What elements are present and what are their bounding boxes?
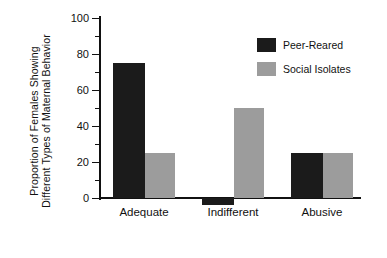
bar-peer-reared-adequate	[113, 63, 145, 198]
bar-social-isolates-adequate	[145, 153, 175, 198]
bar-chart-figure: Proportion of Females Showing Different …	[0, 0, 387, 258]
y-axis-title: Proportion of Females Showing Different …	[23, 21, 57, 221]
y-tick-major-40	[92, 126, 99, 127]
y-tick-major-0	[92, 198, 99, 199]
y-tick-minor-10	[95, 180, 99, 181]
y-axis-title-line-2: Different Types of Maternal Behavior	[40, 34, 52, 208]
y-tick-major-80	[92, 54, 99, 55]
chart-legend: Peer-Reared Social Isolates	[257, 38, 351, 86]
y-tick-minor-30	[95, 144, 99, 145]
legend-swatch-peer-reared	[257, 38, 276, 52]
x-axis-label-abusive: Abusive	[302, 206, 343, 218]
legend-item-social-isolates: Social Isolates	[257, 62, 351, 76]
legend-label-social-isolates: Social Isolates	[283, 63, 351, 75]
y-tick-minor-70	[95, 72, 99, 73]
y-tick-major-60	[92, 90, 99, 91]
y-axis-title-line-1: Proportion of Females Showing	[28, 46, 40, 195]
y-tick-label-20: 20	[77, 156, 89, 168]
bar-social-isolates-indifferent	[234, 108, 264, 198]
legend-swatch-social-isolates	[257, 62, 276, 76]
x-axis-label-indifferent: Indifferent	[208, 206, 259, 218]
y-tick-major-20	[92, 162, 99, 163]
x-axis-label-adequate: Adequate	[119, 206, 168, 218]
y-tick-label-80: 80	[77, 48, 89, 60]
y-tick-label-60: 60	[77, 84, 89, 96]
y-tick-minor-90	[95, 36, 99, 37]
y-tick-label-100: 100	[71, 12, 89, 24]
legend-item-peer-reared: Peer-Reared	[257, 38, 351, 52]
y-tick-label-0: 0	[83, 192, 89, 204]
bar-social-isolates-abusive	[323, 153, 353, 198]
bar-peer-reared-abusive	[291, 153, 323, 198]
legend-label-peer-reared: Peer-Reared	[283, 39, 343, 51]
bar-peer-reared-indifferent	[202, 198, 234, 205]
y-tick-label-40: 40	[77, 120, 89, 132]
y-tick-major-100	[92, 18, 99, 19]
y-tick-minor-50	[95, 108, 99, 109]
